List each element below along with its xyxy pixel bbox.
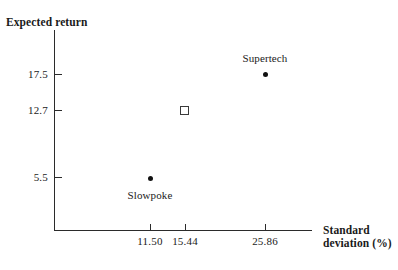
y-axis-tick-17-5 — [55, 74, 62, 75]
y-axis-tick-label-5-5: 5.5 — [8, 172, 48, 183]
data-point-slowpoke[interactable] — [148, 176, 153, 181]
y-axis-tick-12-7 — [55, 110, 62, 111]
x-axis-tick-11-50 — [150, 224, 151, 231]
y-axis-title: Expected return — [6, 16, 87, 29]
scatter-chart: Expected return Standard deviation (%) 1… — [0, 0, 398, 270]
y-axis-tick-5-5 — [55, 177, 62, 178]
data-point-label-supertech: Supertech — [220, 53, 310, 64]
data-point-portfolio[interactable] — [180, 106, 189, 115]
y-axis-tick-label-17-5: 17.5 — [8, 69, 48, 80]
y-axis-line — [54, 30, 55, 231]
data-point-supertech[interactable] — [263, 72, 268, 77]
x-axis-tick-25-86 — [265, 224, 266, 231]
x-axis-tick-15-44 — [185, 224, 186, 231]
x-axis-title-line-1: Standard — [323, 224, 392, 237]
x-axis-line — [54, 230, 312, 231]
x-axis-title-line-2: deviation (%) — [323, 237, 392, 250]
y-axis-tick-label-12-7: 12.7 — [8, 105, 48, 116]
x-axis-tick-label-25-86: 25.86 — [240, 236, 290, 247]
x-axis-title: Standard deviation (%) — [323, 224, 392, 250]
data-point-label-slowpoke: Slowpoke — [105, 190, 195, 201]
x-axis-tick-label-15-44: 15.44 — [160, 236, 210, 247]
